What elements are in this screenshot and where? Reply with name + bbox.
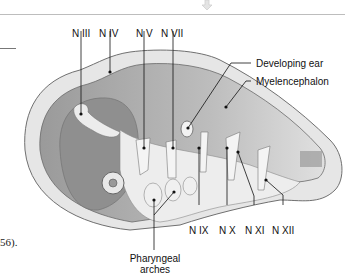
label-developing-ear: Developing ear [256, 58, 323, 69]
label-myelencephalon: Myelencephalon [256, 76, 329, 87]
label-pharyngeal-line2: arches [140, 264, 170, 275]
label-n-v: N V [136, 28, 153, 39]
label-n-ix: N IX [189, 225, 208, 236]
label-n-xii: N XII [272, 225, 294, 236]
label-n-x: N X [219, 225, 236, 236]
label-pharyngeal-arches: Pharyngeal arches [127, 253, 183, 275]
embryo-illustration [0, 0, 345, 279]
label-n-iii: N III [72, 28, 90, 39]
label-pharyngeal-line1: Pharyngeal [130, 253, 181, 264]
label-n-xi: N XI [245, 225, 264, 236]
label-n-vii: N VII [161, 28, 183, 39]
partial-caption-text: 56). [0, 236, 17, 248]
label-n-iv: N IV [99, 28, 118, 39]
